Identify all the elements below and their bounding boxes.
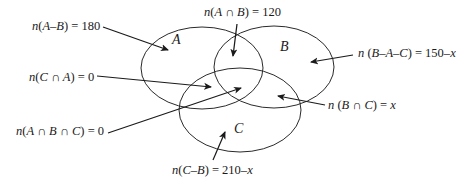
label-expr: B ∩ C bbox=[342, 98, 373, 112]
label-expr: A–B bbox=[42, 19, 64, 33]
set-c-ellipse bbox=[179, 68, 301, 152]
label-a-and-b: n(A ∩ B) = 120 bbox=[204, 5, 281, 19]
label-expr: C ∩ A bbox=[39, 70, 70, 84]
arrow-a-and-b-and-c bbox=[108, 88, 241, 133]
label-expr: B–A–C bbox=[372, 46, 408, 60]
set-b-name: B bbox=[280, 39, 289, 55]
label-b-minus-a-minus-c: n (B–A–C) = 150–x bbox=[358, 46, 456, 60]
label-b-and-c: n (B ∩ C) = x bbox=[328, 98, 396, 112]
arrow-a-and-b bbox=[233, 24, 237, 56]
set-b-ellipse bbox=[214, 26, 334, 108]
label-var: x bbox=[390, 98, 396, 112]
set-a-name: A bbox=[172, 32, 181, 48]
label-suffix: ) = 0 bbox=[80, 124, 104, 138]
label-c-and-a: n(C ∩ A) = 0 bbox=[29, 70, 94, 84]
label-expr: A ∩ B ∩ C bbox=[26, 124, 80, 138]
label-suffix: ) = 210– bbox=[205, 163, 247, 177]
label-var: x bbox=[450, 46, 456, 60]
arrow-a-minus-b bbox=[103, 27, 168, 50]
label-suffix: ) = 180 bbox=[64, 19, 100, 33]
arrow-c-minus-b bbox=[213, 132, 225, 160]
label-c-minus-b: n(C–B) = 210–x bbox=[172, 163, 253, 177]
label-suffix: ) = 120 bbox=[245, 5, 281, 19]
label-expr: A ∩ B bbox=[214, 5, 244, 19]
label-expr: C–B bbox=[182, 163, 204, 177]
label-a-minus-b: nn((A–B) = 180 bbox=[32, 19, 100, 33]
label-suffix: ) = bbox=[373, 98, 390, 112]
set-c-name: C bbox=[234, 121, 243, 137]
label-a-and-b-and-c: n(A ∩ B ∩ C) = 0 bbox=[16, 124, 104, 138]
arrow-c-and-a bbox=[97, 76, 211, 87]
label-suffix: ) = 150– bbox=[408, 46, 450, 60]
label-suffix: ) = 0 bbox=[70, 70, 94, 84]
label-var: x bbox=[247, 163, 253, 177]
